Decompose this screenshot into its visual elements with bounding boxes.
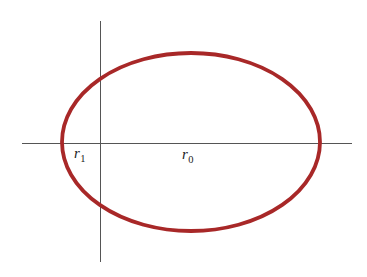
label-r0: r0 (182, 147, 193, 162)
label-r0-symbol: r (182, 146, 188, 162)
label-r1: r1 (74, 146, 85, 161)
ellipse-figure: r1 r0 (0, 0, 367, 277)
label-r0-subscript: 0 (188, 154, 193, 165)
label-r1-subscript: 1 (80, 153, 85, 164)
figure-canvas (0, 0, 367, 277)
label-r1-symbol: r (74, 145, 80, 161)
figure-background (0, 0, 367, 277)
